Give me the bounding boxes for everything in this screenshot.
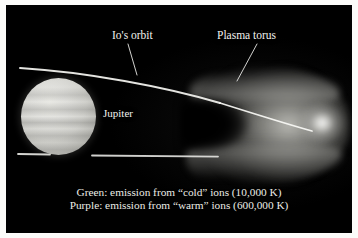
caption-line-green: Green: emission from “cold” ions (10,000…	[6, 186, 352, 199]
orbit-line-lower-stub	[18, 154, 50, 155]
astronomical-image-plate: Io's orbit Plasma torus Jupiter Green: e…	[6, 5, 352, 233]
orbit-line-lower-main	[92, 156, 218, 157]
label-jupiter: Jupiter	[103, 108, 133, 119]
figure-frame: Io's orbit Plasma torus Jupiter Green: e…	[0, 0, 358, 238]
leader-line-plasma-torus	[237, 44, 257, 81]
leader-line-ios-orbit	[128, 44, 137, 75]
caption-block: Green: emission from “cold” ions (10,000…	[6, 186, 352, 211]
caption-line-purple: Purple: emission from “warm” ions (600,0…	[6, 199, 352, 212]
orbit-line-upper-right	[220, 103, 312, 131]
orbit-line-upper-left	[20, 68, 220, 103]
label-ios-orbit: Io's orbit	[112, 30, 153, 42]
label-plasma-torus: Plasma torus	[217, 30, 276, 42]
